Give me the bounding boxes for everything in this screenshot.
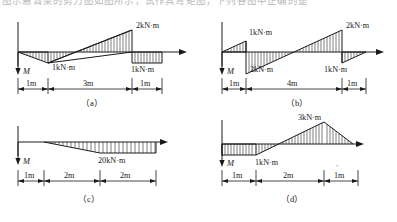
panel-a-label-1knm-left: 1kN·m bbox=[52, 63, 76, 72]
panel-d: M 1kN·m bbox=[198, 112, 397, 218]
panel-c: M bbox=[0, 118, 199, 218]
panel-a-diagram: M 1kN·m bbox=[0, 14, 199, 108]
panel-b-seg3-hatching bbox=[345, 52, 363, 62]
panel-a-dim-3: 1m bbox=[140, 79, 151, 88]
panel-b-dim-3: 1m bbox=[347, 79, 358, 88]
stray-punctuation-mark: , bbox=[336, 158, 338, 168]
panel-d-baseline-arrowhead bbox=[356, 141, 364, 147]
question-caption-strip: 图示悬臂梁的剪力图如图所示，试作其弯矩图，下列各图中正确的是 bbox=[0, 0, 397, 11]
panel-d-label-1knm: 1kN·m bbox=[255, 158, 279, 167]
panel-a-moment-arrowhead bbox=[15, 68, 20, 75]
panel-b-diagram: M 1kN·m bbox=[198, 14, 397, 108]
panel-b-label-1knm-right: 1kN·m bbox=[324, 65, 348, 74]
panel-c-baseline-arrowhead bbox=[160, 139, 168, 145]
panel-a: M 1kN·m bbox=[0, 14, 199, 108]
panel-c-dimension-line bbox=[18, 170, 156, 186]
panel-d-caption: （d） bbox=[281, 194, 303, 204]
panel-c-diagram: M bbox=[0, 118, 199, 218]
panel-b-dim-1: 1m bbox=[229, 79, 240, 88]
panel-a-baseline-arrowhead bbox=[179, 49, 187, 55]
panel-b: M 1kN·m bbox=[198, 14, 397, 108]
panel-a-seg3-hatching bbox=[135, 52, 159, 63]
panel-d-seg3-slope bbox=[324, 122, 353, 144]
panel-c-seg2-slope bbox=[44, 142, 100, 153]
panel-c-label-20knm: 20kN·m bbox=[98, 156, 126, 165]
panel-a-label-1knm-right: 1kN·m bbox=[131, 65, 155, 74]
panel-d-diagram: M 1kN·m bbox=[198, 112, 397, 218]
panel-c-moment-arrowhead bbox=[15, 158, 20, 165]
panel-d-dim-2: 2m bbox=[283, 171, 294, 180]
panel-a-caption: （a） bbox=[81, 98, 103, 108]
panel-a-dim-2: 3m bbox=[83, 79, 94, 88]
panel-b-dim-2: 4m bbox=[287, 79, 298, 88]
panel-b-moment-arrowhead bbox=[219, 68, 224, 75]
panel-a-moment-label: M bbox=[22, 67, 31, 76]
panel-b-moment-label: M bbox=[226, 67, 235, 76]
panel-c-dim-1: 1m bbox=[24, 171, 35, 180]
panel-d-dim-1: 1m bbox=[232, 171, 243, 180]
panel-c-dim-2: 2m bbox=[64, 171, 75, 180]
panel-a-dim-1: 1m bbox=[26, 79, 37, 88]
panel-d-label-3knm: 3kN·m bbox=[298, 113, 322, 122]
panel-b-label-2knm-left: 2kN·m bbox=[250, 65, 274, 74]
panel-d-moment-arrowhead bbox=[219, 160, 224, 167]
panel-d-dim-3: 1m bbox=[334, 171, 345, 180]
panel-b-label-1knm-left: 1kN·m bbox=[249, 28, 273, 37]
panel-c-moment-label: M bbox=[22, 157, 31, 166]
panel-c-dim-3: 2m bbox=[120, 171, 131, 180]
panel-d-seg2-slope bbox=[256, 122, 324, 155]
panel-b-baseline-arrowhead bbox=[376, 49, 384, 55]
panel-b-label-2knm-right: 2kN·m bbox=[346, 21, 370, 30]
panel-d-seg1-hatching bbox=[225, 144, 252, 155]
panel-d-moment-label: M bbox=[226, 159, 235, 168]
panel-c-hatching bbox=[47, 142, 155, 153]
figure-page: 图示悬臂梁的剪力图如图所示，试作其弯矩图，下列各图中正确的是 M bbox=[0, 0, 397, 222]
panel-d-seg1-outline bbox=[222, 144, 256, 155]
panel-c-caption: （c） bbox=[78, 194, 100, 204]
panel-b-caption: （b） bbox=[286, 98, 308, 108]
question-caption-text: 图示悬臂梁的剪力图如图所示，试作其弯矩图，下列各图中正确的是 bbox=[2, 0, 308, 7]
panel-a-label-2knm: 2kN·m bbox=[136, 21, 160, 30]
